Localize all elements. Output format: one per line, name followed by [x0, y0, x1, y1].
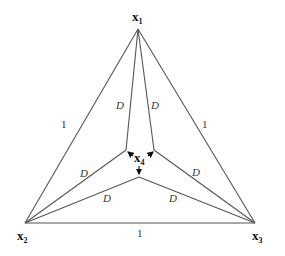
- inner-edges: [25, 29, 255, 223]
- arrow-to-inner-left: [128, 152, 133, 156]
- edge-x2-inner-left: [25, 150, 126, 223]
- vertex-label-x1: x1: [132, 9, 143, 26]
- edge-label-lower-right: D: [168, 192, 177, 204]
- edge-label-upper-left: D: [115, 99, 124, 111]
- edge-x1-x2: [25, 29, 138, 223]
- vertex-label-x4: x4: [134, 150, 145, 167]
- outer-triangle: [25, 29, 255, 223]
- edge-label-lower-left: D: [102, 192, 111, 204]
- vertex-label-x3: x3: [252, 228, 263, 245]
- edge-label-left: D: [79, 167, 88, 179]
- edge-x1-x3: [138, 29, 255, 223]
- edge-label-x1-x3: 1: [202, 118, 208, 130]
- edge-x2-inner-bottom: [25, 177, 139, 223]
- vertex-label-x2: x2: [17, 228, 28, 245]
- edge-label-x1-x2: 1: [61, 118, 67, 130]
- edge-x1-inner-right: [138, 29, 154, 150]
- arrow-to-inner-right: [148, 152, 153, 156]
- edge-label-x2-x3: 1: [137, 227, 143, 239]
- edge-x3-inner-bottom: [139, 177, 255, 223]
- edge-label-right: D: [191, 166, 200, 178]
- edge-x3-inner-right: [154, 150, 255, 223]
- diagram-canvas: x1 x2 x3 x4 1 1 1 D D D D D D: [0, 0, 285, 256]
- edge-label-upper-right: D: [150, 99, 159, 111]
